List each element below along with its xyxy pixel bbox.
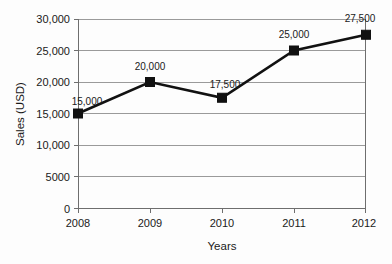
data-label-2012: 27,500 (345, 13, 376, 24)
y-tick-label-15000: 15,000 (36, 108, 70, 120)
data-label-2008: 15,000 (72, 96, 103, 107)
chart-canvas: 30,000 25,000 20,000 15,000 10,000 5000 … (0, 0, 392, 264)
x-tick-label-2011: 2011 (282, 217, 306, 229)
y-tick-label-5000: 5000 (46, 171, 70, 183)
y-tick-label-0: 0 (64, 203, 70, 215)
x-axis-tick-labels: 2008 2009 2010 2011 2012 (66, 217, 376, 229)
data-point-2010[interactable] (218, 93, 227, 102)
y-axis-title: Sales (USD) (14, 82, 26, 146)
y-tick-label-10000: 10,000 (36, 139, 70, 151)
data-label-2011: 25,000 (279, 29, 310, 40)
data-point-2009[interactable] (146, 78, 155, 87)
data-point-2012[interactable] (362, 30, 371, 39)
data-point-2008[interactable] (74, 109, 83, 118)
data-label-2009: 20,000 (135, 61, 166, 72)
y-axis-tick-labels: 30,000 25,000 20,000 15,000 10,000 5000 … (36, 13, 70, 215)
x-tick-label-2012: 2012 (352, 217, 376, 229)
line-chart: 30,000 25,000 20,000 15,000 10,000 5000 … (0, 0, 392, 264)
x-tick-label-2008: 2008 (66, 217, 90, 229)
x-tick-label-2009: 2009 (138, 217, 162, 229)
y-tick-label-20000: 20,000 (36, 76, 70, 88)
x-tick-label-2010: 2010 (210, 217, 234, 229)
y-tick-label-25000: 25,000 (36, 45, 70, 57)
y-tick-label-30000: 30,000 (36, 13, 70, 25)
x-axis-title: Years (208, 240, 237, 252)
data-point-2011[interactable] (290, 46, 299, 55)
data-label-2010: 17,500 (210, 79, 241, 90)
